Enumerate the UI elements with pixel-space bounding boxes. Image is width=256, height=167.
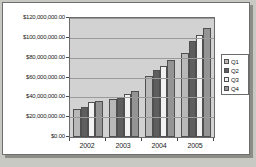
x-axis-tick (213, 138, 214, 141)
bar-q4-2003[interactable] (131, 91, 138, 137)
gridline (70, 97, 214, 98)
legend-label: Q4 (231, 86, 239, 92)
legend-item-q2[interactable]: Q2 (224, 66, 247, 75)
gridline (70, 117, 214, 118)
x-axis-tick-label: 2003 (116, 142, 131, 149)
legend-swatch-icon (224, 86, 229, 91)
legend-label: Q1 (231, 59, 239, 65)
y-axis-tick-label: $0.00 (51, 133, 65, 139)
x-axis-tick (177, 138, 178, 141)
x-axis-tick (69, 138, 70, 141)
bar-q1-2003[interactable] (109, 99, 116, 137)
bar-q3-2004[interactable] (160, 66, 167, 137)
bar-q3-2002[interactable] (88, 102, 95, 137)
x-axis-tick-label: 2002 (80, 142, 95, 149)
legend-swatch-icon (224, 68, 229, 73)
bar-q1-2002[interactable] (73, 109, 80, 137)
legend-swatch-icon (224, 59, 229, 64)
gridline (70, 58, 214, 59)
gridline (70, 78, 214, 79)
legend-item-q3[interactable]: Q3 (224, 75, 247, 84)
bar-q3-2003[interactable] (124, 94, 131, 137)
legend-swatch-icon (224, 77, 229, 82)
x-axis-tick (105, 138, 106, 141)
y-axis-tick-label: $100,000,000.00 (23, 34, 65, 40)
bar-q4-2004[interactable] (167, 60, 174, 137)
y-axis-tick-label: $120,000,000.00 (23, 14, 65, 20)
plot-area (69, 17, 215, 138)
y-axis-tick-label: $40,000,000.00 (26, 93, 65, 99)
legend-item-q4[interactable]: Q4 (224, 84, 247, 93)
chart-shadow-bottom (5, 155, 253, 158)
legend-item-q1[interactable]: Q1 (224, 57, 247, 66)
bar-q2-2004[interactable] (153, 70, 160, 137)
y-axis-tick-label: $80,000,000.00 (26, 54, 65, 60)
x-axis-tick-label: 2005 (188, 142, 203, 149)
bar-q3-2005[interactable] (196, 35, 203, 137)
bar-q2-2005[interactable] (189, 41, 196, 137)
bar-q1-2004[interactable] (145, 76, 152, 137)
chart-screenshot: $0.00$20,000,000.00$40,000,000.00$60,000… (0, 0, 256, 167)
legend-label: Q2 (231, 68, 239, 74)
chart-object[interactable]: $0.00$20,000,000.00$40,000,000.00$60,000… (2, 2, 250, 155)
chart-legend[interactable]: Q1Q2Q3Q4 (221, 54, 249, 95)
bar-q2-2002[interactable] (81, 107, 88, 137)
gridline (70, 18, 214, 19)
chart-shadow-right (250, 5, 253, 158)
y-axis-tick-label: $60,000,000.00 (26, 74, 65, 80)
bar-q1-2005[interactable] (181, 53, 188, 137)
legend-label: Q3 (231, 77, 239, 83)
y-axis-tick-label: $20,000,000.00 (26, 113, 65, 119)
bar-q4-2002[interactable] (95, 101, 102, 137)
bar-q4-2005[interactable] (203, 28, 210, 137)
x-axis-tick (141, 138, 142, 141)
y-axis: $0.00$20,000,000.00$40,000,000.00$60,000… (3, 3, 67, 152)
gridline (70, 38, 214, 39)
x-axis-tick-label: 2004 (152, 142, 167, 149)
